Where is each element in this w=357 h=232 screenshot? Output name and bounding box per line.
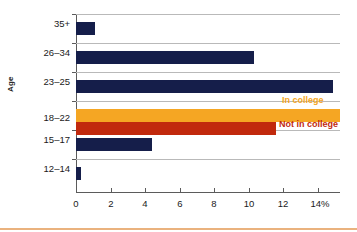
y-tick [72,159,76,160]
y-tick [72,43,76,44]
legend-in-college: In college [282,95,324,105]
category-label-18-22: 18–22 [10,112,70,123]
x-tick-label-0: 0 [73,198,78,209]
x-tick-label-10: 10 [244,198,255,209]
x-tick-mark [318,188,319,193]
x-tick-mark [111,188,112,193]
bar-23-25 [76,80,333,93]
gridline [76,72,340,73]
bar-12-14 [76,167,81,180]
bar-26-34 [76,51,254,64]
y-tick [72,14,76,15]
x-tick-label-2: 2 [108,198,113,209]
category-label-12-14: 12–14 [10,163,70,174]
category-label-15-17: 15–17 [10,134,70,145]
bar-15-17 [76,138,152,151]
bar-18-22-not-in-college [76,122,276,135]
legend-not-in-college: Not in college [279,119,338,129]
x-tick-mark [249,188,250,193]
bar-35plus [76,22,95,35]
y-tick [72,72,76,73]
category-label-23-25: 23–25 [10,76,70,87]
bar-chart: Age 35+ 26–34 23–25 18–22 15–17 12–14 In… [0,0,357,232]
gridline [76,43,340,44]
x-tick-mark [214,188,215,193]
gridline [76,14,340,15]
y-tick [72,101,76,102]
x-tick-mark [283,188,284,193]
x-tick-mark [180,188,181,193]
x-tick-label-6: 6 [177,198,182,209]
x-tick-label-8: 8 [211,198,216,209]
x-tick-label-12: 12 [278,198,289,209]
x-tick-mark [76,188,77,193]
gridline [76,159,340,160]
x-axis-line [76,192,340,193]
category-label-26-34: 26–34 [10,47,70,58]
x-tick-mark [145,188,146,193]
x-tick-label-4: 4 [142,198,147,209]
bottom-rule [0,228,357,230]
category-label-35plus: 35+ [10,18,70,29]
x-tick-label-14: 14% [310,198,329,209]
